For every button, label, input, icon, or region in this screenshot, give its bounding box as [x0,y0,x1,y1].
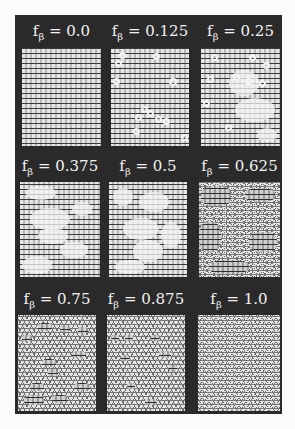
lattice-image [107,315,185,411]
panel-fbeta-0-875: fβ = 0.875 [107,288,185,411]
lattice-image [109,182,187,277]
panel-fbeta-0-25: fβ = 0.25 [201,20,280,146]
panel-label: fβ = 0.875 [107,290,185,308]
panel-label: fβ = 0.125 [111,22,189,40]
lattice-image [201,48,280,146]
panel-label: fβ = 0.5 [109,157,187,175]
panel-label: fβ = 0.25 [201,22,280,40]
beta-rings [111,48,189,146]
panel-fbeta-0-75: fβ = 0.75 [18,288,96,411]
panel-fbeta-0-0: fβ = 0.0 [22,20,101,146]
panel-label: fβ = 0.75 [18,290,96,308]
lattice-image [111,48,189,146]
panel-fbeta-0-5: fβ = 0.5 [109,155,187,277]
lattice-image [22,48,101,146]
panel-fbeta-0-375: fβ = 0.375 [20,155,100,277]
panel-label: fβ = 1.0 [198,290,280,308]
beta-clusters [201,48,280,146]
lattice-image [198,315,280,411]
lattice-image [20,182,100,277]
panel-fbeta-0-125: fβ = 0.125 [111,20,189,146]
panel-label: fβ = 0.375 [20,157,100,175]
lattice-image [199,182,280,277]
lattice-image [18,315,96,411]
panel-fbeta-0-625: fβ = 0.625 [199,155,280,277]
panel-label: fβ = 0.625 [199,157,280,175]
panel-fbeta-1-0: fβ = 1.0 [198,288,280,411]
panel-label: fβ = 0.0 [22,22,101,40]
